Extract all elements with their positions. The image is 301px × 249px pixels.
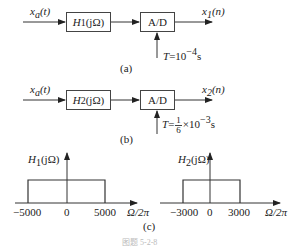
ad-converter-block-b: A/D [140, 90, 175, 110]
sampling-fraction: 16 [175, 116, 182, 135]
filter-block-h1: H1(jΩ) [66, 12, 111, 32]
plot-h2-tick-zero: 0 [207, 206, 213, 218]
plot-h1-xlabel: Ω/2π [127, 206, 149, 218]
plot-h1-tick-pos: 5000 [94, 206, 116, 218]
input-signal-label-a: xa(t) [30, 5, 50, 20]
diagram-lines [0, 0, 301, 249]
figure-caption: 图题 5-2-8 [122, 236, 157, 247]
filter-block-h2: H2(jΩ) [66, 90, 111, 110]
ad-converter-block-a: A/D [140, 12, 175, 32]
input-signal-label-b: xa(t) [30, 83, 50, 98]
sampling-period-label-b: T=16×10−3s [162, 114, 215, 135]
output-signal-label-b: x2(n) [202, 83, 225, 98]
plot-h1-ylabel: H1(jΩ) [28, 153, 60, 168]
output-signal-label-a: x1(n) [202, 5, 225, 20]
plot-h2-ylabel: H2(jΩ) [178, 153, 210, 168]
plot-h1-tick-neg: −5000 [13, 206, 41, 218]
plot-h2-tick-pos: 3000 [228, 206, 250, 218]
caption-a: (a) [120, 62, 132, 74]
plot-h1-tick-zero: 0 [64, 206, 70, 218]
plot-h2-xlabel: Ω/2π [265, 206, 287, 218]
plot-h2-tick-neg: −3000 [170, 206, 198, 218]
caption-b: (b) [120, 133, 133, 145]
sampling-period-label-a: T=10−4s [163, 46, 201, 62]
caption-c: (c) [143, 220, 155, 232]
